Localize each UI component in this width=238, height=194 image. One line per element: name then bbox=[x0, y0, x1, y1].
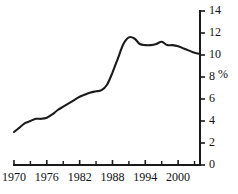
x-tick-label: 1982 bbox=[68, 170, 92, 184]
axis-labels: 19701976198219881994200002468101214% bbox=[2, 3, 228, 184]
y-tick-label: 8 bbox=[209, 69, 215, 83]
data-series bbox=[14, 37, 200, 132]
y-axis-unit-label: % bbox=[218, 67, 228, 81]
chart-canvas: 19701976198219881994200002468101214% bbox=[0, 0, 238, 194]
x-tick-label: 1994 bbox=[133, 170, 157, 184]
y-tick-label: 12 bbox=[209, 25, 221, 39]
y-tick-label: 0 bbox=[209, 157, 215, 171]
x-tick-label: 1970 bbox=[2, 170, 26, 184]
y-tick-label: 2 bbox=[209, 135, 215, 149]
y-axis bbox=[200, 11, 205, 165]
y-tick-label: 6 bbox=[209, 91, 215, 105]
x-axis bbox=[14, 160, 200, 165]
line-chart: 19701976198219881994200002468101214% bbox=[0, 0, 238, 194]
y-tick-label: 4 bbox=[209, 113, 215, 127]
x-tick-label: 2000 bbox=[166, 170, 190, 184]
y-tick-label: 10 bbox=[209, 47, 221, 61]
series-line bbox=[14, 37, 200, 132]
x-tick-label: 1988 bbox=[100, 170, 124, 184]
y-tick-label: 14 bbox=[209, 3, 221, 17]
x-tick-label: 1976 bbox=[35, 170, 59, 184]
